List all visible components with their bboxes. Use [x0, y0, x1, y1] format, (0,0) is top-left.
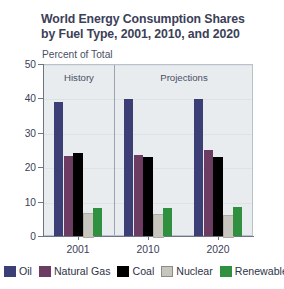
y-tick-mark	[38, 133, 43, 134]
bar-coal-2001	[73, 153, 82, 236]
y-tick-mark	[38, 98, 43, 99]
legend-label: Natural Gas	[54, 265, 111, 277]
x-tick-label-2001: 2001	[66, 244, 89, 255]
chart-title-line-1: World Energy Consumption Shares	[41, 12, 279, 27]
era-label-history: History	[44, 72, 114, 83]
bar-natural-gas-2020	[204, 150, 213, 236]
legend-label: Renewables	[235, 265, 284, 277]
legend-swatch-icon	[117, 266, 129, 277]
legend-swatch-icon	[161, 266, 173, 277]
y-tick-mark	[38, 167, 43, 168]
y-tick-mark	[38, 202, 43, 203]
x-tick-mark	[78, 236, 79, 240]
y-tick-label: 0	[30, 231, 36, 242]
legend-label: Coal	[132, 265, 154, 277]
bar-coal-2010	[143, 157, 152, 236]
chart-title-line-2: by Fuel Type, 2001, 2010, and 2020	[41, 27, 279, 42]
legend-item-coal[interactable]: Coal	[117, 265, 154, 277]
bar-renewables-2020	[233, 207, 242, 236]
bar-renewables-2001	[93, 208, 102, 236]
bar-oil-2010	[124, 99, 133, 236]
y-axis-line	[43, 64, 44, 236]
bar-natural-gas-2001	[64, 156, 73, 236]
y-tick-label: 30	[25, 127, 36, 138]
x-tick-mark	[148, 236, 149, 240]
legend-label: Nuclear	[176, 265, 213, 277]
chart-legend: OilNatural GasCoalNuclearRenewables	[4, 263, 284, 279]
legend-item-natural-gas[interactable]: Natural Gas	[39, 265, 111, 277]
y-tick-label: 40	[25, 93, 36, 104]
gridline	[44, 134, 252, 135]
bar-oil-2020	[194, 99, 203, 236]
history-projections-divider	[114, 65, 115, 235]
legend-swatch-icon	[4, 266, 16, 277]
legend-item-nuclear[interactable]: Nuclear	[161, 265, 213, 277]
legend-swatch-icon	[220, 266, 232, 277]
bar-coal-2020	[213, 157, 222, 236]
bar-renewables-2010	[163, 208, 172, 236]
x-tick-label-2010: 2010	[136, 244, 159, 255]
chart-title: World Energy Consumption Shares by Fuel …	[41, 12, 279, 42]
y-tick-mark	[38, 236, 43, 237]
legend-item-oil[interactable]: Oil	[4, 265, 32, 277]
gridline	[44, 99, 252, 100]
gridline	[44, 65, 252, 66]
y-tick-label: 20	[25, 162, 36, 173]
y-tick-mark	[38, 64, 43, 65]
y-tick-label: 10	[25, 196, 36, 207]
x-tick-mark	[218, 236, 219, 240]
legend-swatch-icon	[39, 266, 51, 277]
y-tick-label: 50	[25, 59, 36, 70]
legend-label: Oil	[19, 265, 32, 277]
chart-figure: World Energy Consumption Shares by Fuel …	[0, 0, 284, 289]
legend-item-renewables[interactable]: Renewables	[220, 265, 284, 277]
chart-subtitle: Percent of Total	[42, 49, 113, 60]
bar-oil-2001	[54, 102, 63, 236]
era-label-projections: Projections	[114, 72, 254, 83]
x-tick-label-2020: 2020	[206, 244, 229, 255]
bar-natural-gas-2010	[134, 155, 143, 236]
